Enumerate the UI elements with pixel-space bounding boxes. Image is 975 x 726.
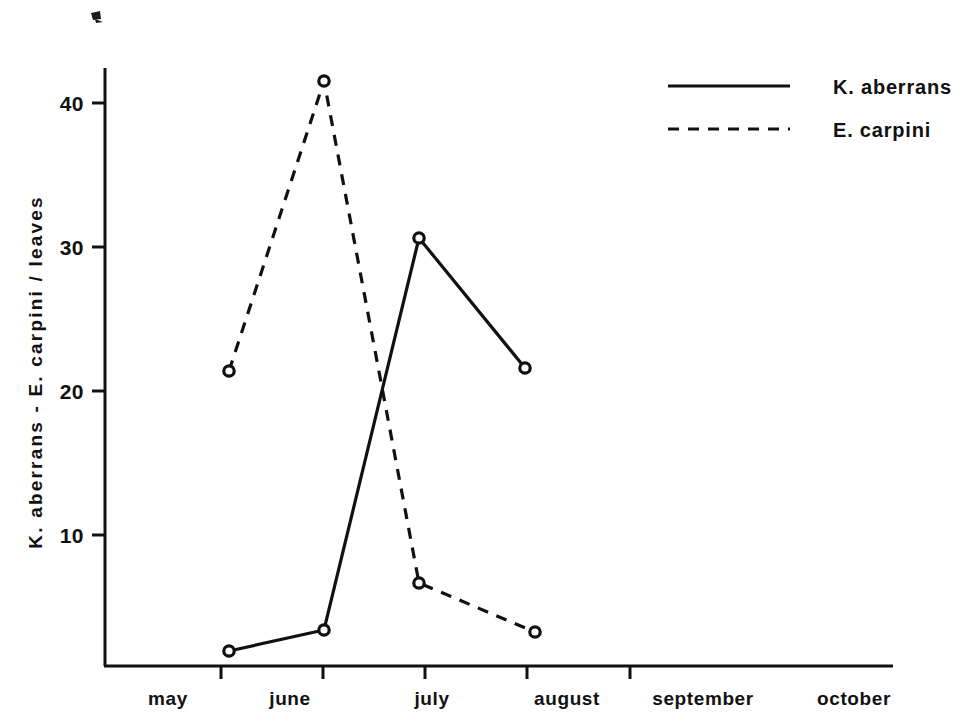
e-carpini-point-may bbox=[224, 366, 234, 376]
e-carpini-point-june bbox=[319, 76, 329, 86]
scan-artifact-mark bbox=[91, 11, 103, 23]
k-aberrans-point-august bbox=[520, 363, 530, 373]
y-tick-label-40: 40 bbox=[60, 92, 84, 115]
legend-label-e-carpini: E. carpini bbox=[833, 119, 931, 141]
k-aberrans-point-june bbox=[319, 625, 329, 635]
x-label-june: june bbox=[268, 688, 310, 709]
e-carpini-line bbox=[229, 81, 535, 632]
x-label-september: september bbox=[652, 688, 754, 709]
chart-legend: K. aberrans E. carpini bbox=[668, 76, 952, 141]
y-axis-ticks bbox=[92, 103, 105, 535]
legend-label-k-aberrans: K. aberrans bbox=[833, 76, 952, 98]
e-carpini-point-july bbox=[414, 578, 424, 588]
e-carpini-point-august bbox=[530, 627, 540, 637]
x-axis-ticks bbox=[221, 666, 630, 679]
chart-figure: 40 30 20 10 K. aberrans - E. carpini / l… bbox=[0, 0, 975, 726]
y-axis-title: K. aberrans - E. carpini / leaves bbox=[25, 195, 46, 549]
y-tick-label-30: 30 bbox=[60, 236, 84, 259]
k-aberrans-line bbox=[229, 238, 525, 651]
x-label-may: may bbox=[148, 688, 188, 709]
series-k-aberrans bbox=[224, 233, 530, 656]
y-tick-label-10: 10 bbox=[60, 524, 84, 547]
k-aberrans-point-july bbox=[414, 233, 424, 243]
x-label-october: october bbox=[817, 688, 891, 709]
x-label-august: august bbox=[534, 688, 600, 709]
k-aberrans-point-may bbox=[224, 646, 234, 656]
series-e-carpini bbox=[224, 76, 540, 637]
x-label-july: july bbox=[413, 688, 449, 709]
y-tick-label-20: 20 bbox=[60, 380, 84, 403]
line-chart-canvas: 40 30 20 10 K. aberrans - E. carpini / l… bbox=[0, 0, 975, 726]
